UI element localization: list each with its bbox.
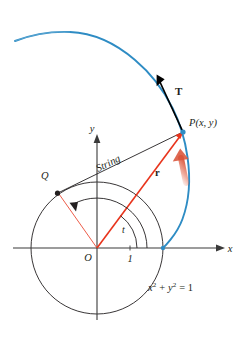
radius-vector-label: r bbox=[155, 167, 160, 178]
y-axis-label: y bbox=[89, 123, 95, 134]
string-label: String bbox=[94, 153, 122, 174]
point-P-label: P(x, y) bbox=[188, 117, 217, 129]
equation-x-exponent: 2 bbox=[153, 281, 157, 289]
x-axis-arrowhead bbox=[216, 245, 225, 252]
unit-tick-label: 1 bbox=[127, 253, 132, 264]
point-P-dot bbox=[180, 129, 185, 134]
equation-equals-one: = 1 bbox=[179, 282, 193, 293]
origin-label: O bbox=[84, 252, 92, 263]
equation-y-exponent: 2 bbox=[173, 281, 177, 289]
angle-arc-to-Q bbox=[72, 198, 147, 248]
circle-equation: x2+y2= 1 bbox=[147, 281, 193, 293]
angle-label-t: t bbox=[122, 224, 125, 235]
involute-curve bbox=[15, 32, 189, 248]
position-vector-r bbox=[97, 136, 180, 248]
x-axis-label: x bbox=[227, 243, 233, 254]
point-Q-label: Q bbox=[41, 170, 49, 181]
involute-diagram: x y O 1 P(x, y) Q t r T String x2+y2= 1 bbox=[0, 0, 243, 341]
angle-arc-arrowhead bbox=[70, 202, 79, 211]
point-Q-dot bbox=[55, 191, 60, 196]
y-axis-arrowhead bbox=[94, 134, 101, 143]
point-unit-dot bbox=[161, 246, 165, 250]
tangent-vector-label: T bbox=[175, 85, 183, 97]
involute-curve-highlight bbox=[15, 32, 70, 41]
equation-plus: + bbox=[159, 282, 165, 293]
